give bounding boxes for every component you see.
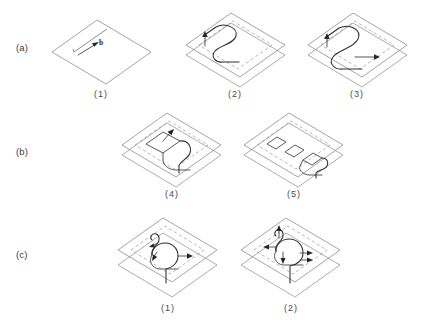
prismatic-loop-2 xyxy=(285,145,304,157)
arrow-head-c2-up xyxy=(277,225,282,231)
upper-plane-b5 xyxy=(244,113,343,177)
upper-plane-b4 xyxy=(122,113,221,177)
panel-a3: (3) xyxy=(308,13,407,99)
caption-a3: (3) xyxy=(350,89,364,99)
upper-plane-c1 xyxy=(118,218,217,282)
prismatic-loop-3 xyxy=(303,153,322,165)
caption-b4: (4) xyxy=(165,189,179,199)
dislocation-tail-b4 xyxy=(163,153,190,170)
arrow-head-c2-r1 xyxy=(307,250,313,255)
panel-a2: (2) xyxy=(186,13,285,99)
arrow-head-c2-r2 xyxy=(307,257,313,262)
dislocation-line-a2 xyxy=(203,25,239,62)
lower-plane-a3 xyxy=(308,23,407,87)
dislocation-tail-c2 xyxy=(274,251,303,265)
dislocation-arc-c2 xyxy=(276,239,303,283)
caption-b5: (5) xyxy=(287,189,301,199)
dislocation-line-a3 xyxy=(325,26,362,69)
row-label-a: (a) xyxy=(16,42,28,53)
row-label-c: (c) xyxy=(16,249,28,260)
panel-b5: (5) xyxy=(244,113,343,199)
figure-root: (a) b (1) (2) xyxy=(0,0,423,326)
caption-c1: (1) xyxy=(161,303,175,313)
arrow-head-a2 xyxy=(202,31,207,37)
burgers-arrow-line-a1 xyxy=(78,44,96,55)
caption-a1: (1) xyxy=(94,89,108,99)
upper-plane-a2 xyxy=(186,13,285,77)
dislocation-arc-c1 xyxy=(152,243,178,283)
row-label-b: (b) xyxy=(16,146,28,157)
dislocation-figure: (a) b (1) (2) xyxy=(0,0,423,326)
lower-plane-c1 xyxy=(118,233,217,297)
lower-plane-a2 xyxy=(186,23,285,87)
burgers-vector-label: b xyxy=(99,38,103,47)
panel-b4: (4) xyxy=(122,113,221,199)
upper-plane-a3 xyxy=(308,13,407,77)
panel-c2: (2) xyxy=(241,218,340,313)
arrow-head-c2-down xyxy=(281,258,286,264)
dipole-loop-b4 xyxy=(146,132,180,153)
slip-plane-a1 xyxy=(52,20,151,84)
panel-c1: (1) xyxy=(118,218,217,313)
arrow-head-c1-a xyxy=(152,254,157,261)
cut-line-a1-edge xyxy=(73,49,74,52)
arrow-head-a3-up xyxy=(324,33,329,39)
arrow-head-a3-right xyxy=(374,54,380,59)
caption-c2: (2) xyxy=(284,303,298,313)
lower-plane-b5 xyxy=(244,123,343,187)
prismatic-loop-1 xyxy=(267,137,286,149)
arrow-head-c1-b xyxy=(187,253,193,258)
panel-a1: b (1) xyxy=(52,20,151,99)
caption-a2: (2) xyxy=(228,89,242,99)
arrow-head-c1-c xyxy=(149,243,155,247)
